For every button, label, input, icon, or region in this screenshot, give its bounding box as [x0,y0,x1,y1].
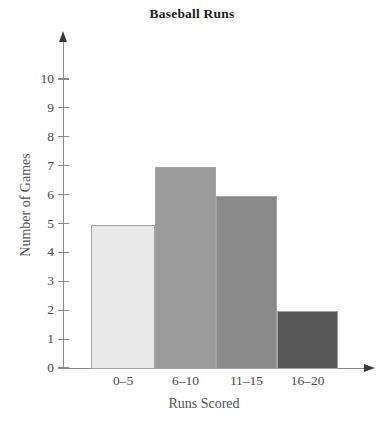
bar-6-10 [155,167,216,369]
x-axis-tick-label: 11–15 [216,373,277,389]
x-axis-tick-label: 16–20 [277,373,338,389]
baseball-runs-chart: Baseball Runs Number of Games 0123456789… [0,0,384,427]
x-axis-tick-label: 0–5 [91,373,155,389]
plot-area [0,0,384,369]
x-axis-label: Runs Scored [64,396,344,412]
x-axis-tick-label: 6–10 [155,373,216,389]
bar-0-5 [91,225,155,370]
bar-11-15 [216,196,277,369]
bar-16-20 [277,311,338,369]
